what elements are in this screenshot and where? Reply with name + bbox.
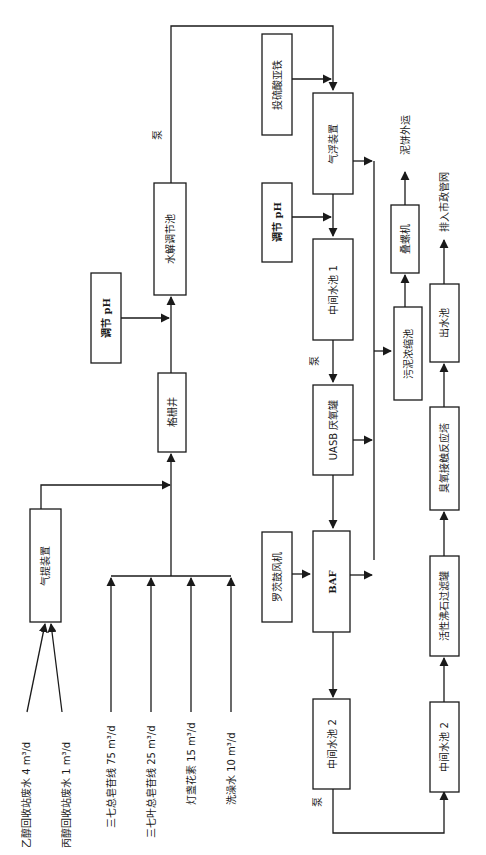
flow-mid2a-to-mid2b (333, 789, 444, 833)
input-label-ethanol: 乙醇回收站废水 4 m³/d (20, 742, 32, 848)
discharge-label: 排入市政管网 (438, 172, 450, 232)
pump-label-1: 泵 (152, 130, 163, 140)
input-label-sanqi-leaf: 三七叶总皂苷线 25 m³/d (145, 725, 157, 838)
roots-blower-label: 罗茨鼓风机 (271, 552, 283, 602)
flow-propanol-to-stripper (51, 624, 62, 712)
flotation-label: 气浮装置 (327, 124, 339, 164)
ferrous-sulfate-label: 投硫酸亚铁 (271, 60, 283, 110)
stripper-label: 气提装置 (39, 546, 51, 586)
outlet-tank-label: 出水池 (438, 308, 450, 338)
pump-label-3: 泵 (312, 797, 323, 807)
ph-adjust-2-label: 调节 pH (271, 202, 283, 242)
mid-tank-2b-label: 中间水池 2 (438, 722, 450, 772)
input-label-sanqi: 三七总皂苷线 75 m³/d (105, 725, 117, 828)
flow-ethanol-to-stripper (27, 624, 45, 712)
flow-hydrolysis-to-flotation (171, 26, 333, 183)
input-label-propanol: 丙醇回收站废水 1 m³/d (60, 742, 72, 848)
hydrolysis-tank-label: 水解调节池 (164, 214, 176, 264)
process-flow-diagram: 气提装置 乙醇回收站废水 4 m³/d 丙醇回收站废水 1 m³/d 三七总皂苷… (0, 0, 486, 855)
zeolite-filter-label: 活性沸石过滤罐 (438, 571, 450, 641)
sludge-out-label: 泥饼外运 (399, 115, 411, 155)
mid-tank-1-label: 中间水池 1 (327, 265, 339, 315)
screen-well-label: 格栅井 (166, 397, 178, 427)
uasb-label: UASB 厌氧罐 (327, 400, 339, 461)
pump-label-2: 泵 (309, 356, 320, 366)
ph-adjust-1-label: 调节 pH (100, 298, 112, 338)
screw-press-label: 叠螺机 (399, 224, 411, 254)
ozone-tower-label: 臭氧接触反应塔 (438, 423, 450, 493)
input-label-washing: 洗澡水 10 m³/d (226, 732, 237, 805)
flow-stripper-to-riser (41, 485, 170, 509)
mid-tank-2a-label: 中间水池 2 (326, 719, 338, 769)
sludge-thickener-label: 污泥浓缩池 (402, 329, 414, 379)
input-label-dengzhan: 灯盏花素 15 m³/d (185, 722, 197, 805)
baf-label: BAF (327, 570, 338, 593)
